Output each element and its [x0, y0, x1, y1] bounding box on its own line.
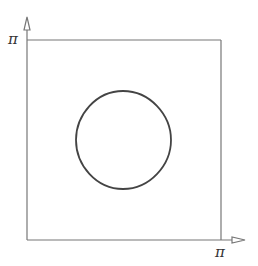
- x-axis: [27, 237, 245, 243]
- x-axis-arrow-icon: [232, 237, 245, 243]
- square-frame: [27, 40, 221, 240]
- y-axis-pi-label: π: [8, 32, 18, 47]
- x-axis-pi-label: π: [215, 245, 225, 260]
- y-axis-arrow-icon: [24, 17, 30, 30]
- level-curve: [76, 91, 171, 189]
- diagram-canvas: [0, 0, 258, 266]
- y-axis: [24, 17, 30, 240]
